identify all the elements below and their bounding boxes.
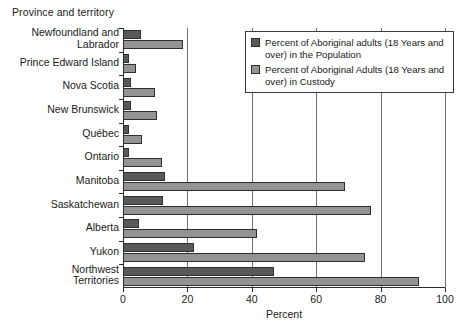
bar-chart-figure: Province and territory Newfoundland and …	[0, 0, 472, 331]
category-axis-title: Province and territory	[12, 6, 114, 18]
x-tick-40	[252, 288, 253, 292]
x-tick-0	[123, 288, 124, 292]
x-tick-80	[381, 288, 382, 292]
x-tick-20	[187, 288, 188, 292]
x-tick-label: 40	[246, 293, 258, 305]
category-label: Prince Edward Island	[0, 57, 119, 69]
category-label: Nova Scotia	[0, 80, 119, 92]
x-tick-label: 0	[120, 293, 126, 305]
category-label: Ontario	[0, 151, 119, 163]
x-tick-label: 60	[310, 293, 322, 305]
x-tick-60	[316, 288, 317, 292]
legend-item-population: Percent of Aboriginal adults (18 Years a…	[251, 37, 447, 60]
x-tick-100	[445, 288, 446, 292]
category-axis-labels: Newfoundland and LabradorPrince Edward I…	[0, 28, 119, 288]
x-axis: 020406080100	[123, 288, 445, 308]
category-label: Saskatchewan	[0, 199, 119, 211]
legend-label-custody: Percent of Aboriginal Adults (18 Years a…	[265, 64, 447, 87]
category-label: Yukon	[0, 246, 119, 258]
x-tick-label: 80	[375, 293, 387, 305]
category-label: Québec	[0, 128, 119, 140]
x-axis-title: Percent	[123, 308, 445, 320]
category-label: Northwest Territories	[0, 264, 119, 287]
chart-legend: Percent of Aboriginal adults (18 Years a…	[245, 31, 454, 93]
x-tick-label: 20	[182, 293, 194, 305]
category-label: Manitoba	[0, 175, 119, 187]
legend-swatch-population-icon	[251, 38, 260, 47]
category-label: Alberta	[0, 222, 119, 234]
category-label: New Brunswick	[0, 104, 119, 116]
legend-label-population: Percent of Aboriginal adults (18 Years a…	[265, 37, 447, 60]
x-tick-label: 100	[436, 293, 454, 305]
legend-item-custody: Percent of Aboriginal Adults (18 Years a…	[251, 64, 447, 87]
legend-swatch-custody-icon	[251, 65, 260, 74]
category-label: Newfoundland and Labrador	[0, 27, 119, 50]
